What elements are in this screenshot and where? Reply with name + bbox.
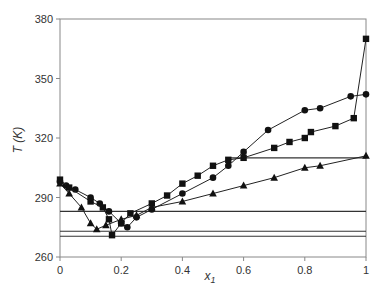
triangle-marker [362, 152, 370, 159]
square-marker [271, 145, 277, 151]
x-tick-label: 1 [363, 264, 369, 276]
x-tick-label: 0.6 [236, 264, 251, 276]
square-marker [240, 155, 246, 161]
x-tick-label: 0.4 [175, 264, 190, 276]
square-marker [109, 232, 115, 238]
y-tick-label: 350 [35, 73, 53, 85]
triangle-marker [87, 219, 95, 226]
square-marker [127, 210, 133, 216]
circle-marker [265, 127, 272, 134]
square-marker [210, 163, 216, 169]
x-axis-label: x1 [203, 269, 215, 285]
square-marker [100, 204, 106, 210]
y-tick-label: 290 [35, 192, 53, 204]
square-marker [195, 172, 201, 178]
square-marker [164, 192, 170, 198]
circle-marker [210, 174, 217, 181]
circle-marker [225, 162, 232, 169]
square-marker [308, 129, 314, 135]
square-marker [363, 36, 369, 42]
x-tick-label: 0.2 [114, 264, 129, 276]
circle-marker [240, 149, 247, 156]
circle-marker [124, 224, 131, 231]
circle-marker [317, 105, 324, 112]
square-marker [286, 139, 292, 145]
circle-marker [347, 93, 354, 100]
y-tick-label: 380 [35, 13, 53, 25]
y-axis-label: T (K) [11, 127, 25, 154]
triangle-marker [133, 211, 141, 218]
data-series [56, 36, 370, 239]
square-marker [351, 115, 357, 121]
square-marker [179, 180, 185, 186]
square-marker [302, 135, 308, 141]
circle-marker [106, 208, 113, 215]
y-tick-label: 320 [35, 132, 53, 144]
square-marker [106, 216, 112, 222]
phase-diagram-chart: 26029032035038000.20.40.60.81 T (K) x1 [0, 0, 382, 295]
x-tick-label: 0 [57, 264, 63, 276]
circle-marker [363, 91, 370, 98]
square-marker [87, 198, 93, 204]
square-marker [332, 123, 338, 129]
y-tick-label: 260 [35, 251, 53, 263]
circle-marker [302, 107, 309, 114]
square-marker [225, 157, 231, 163]
x-tick-label: 0.8 [297, 264, 312, 276]
circle-marker [179, 190, 186, 197]
